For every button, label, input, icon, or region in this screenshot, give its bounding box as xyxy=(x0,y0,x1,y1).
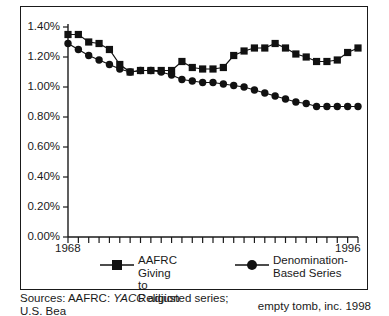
data-point-square xyxy=(344,49,351,56)
data-point-square xyxy=(303,53,310,60)
data-point-square xyxy=(323,58,330,65)
data-point-circle xyxy=(271,92,278,99)
data-point-circle xyxy=(251,86,258,93)
data-point-square xyxy=(85,38,92,45)
data-point-circle xyxy=(75,46,82,53)
source-second-line: U.S. Bea xyxy=(20,305,66,316)
data-point-circle xyxy=(354,103,361,110)
data-point-circle xyxy=(168,71,175,78)
data-point-square xyxy=(230,52,237,59)
data-point-square xyxy=(240,47,247,54)
data-point-circle xyxy=(209,79,216,86)
y-axis-tick-label: 1.20% xyxy=(8,51,60,63)
data-point-square xyxy=(209,65,216,72)
data-point-square xyxy=(251,44,258,51)
y-axis-tick-label: 1.40% xyxy=(8,21,60,33)
y-axis-tick-label: 0.60% xyxy=(8,141,60,153)
data-point-circle xyxy=(106,61,113,68)
y-axis-tick-label: 0.40% xyxy=(8,171,60,183)
data-point-square xyxy=(199,65,206,72)
data-point-square xyxy=(106,46,113,53)
data-point-square xyxy=(261,44,268,51)
data-point-circle xyxy=(344,103,351,110)
data-point-circle xyxy=(116,65,123,72)
data-point-circle xyxy=(303,100,310,107)
data-point-circle xyxy=(323,103,330,110)
source-prefix: Sources: AAFRC: xyxy=(20,292,113,304)
data-point-circle xyxy=(334,103,341,110)
data-point-square xyxy=(64,31,71,38)
chart-axes xyxy=(68,24,358,237)
data-point-square xyxy=(313,58,320,65)
data-point-square xyxy=(178,58,185,65)
data-point-circle xyxy=(230,82,237,89)
data-point-circle xyxy=(64,40,71,47)
credit-note: empty tomb, inc. 1998 xyxy=(258,300,371,313)
circle-marker-icon xyxy=(235,260,269,270)
data-point-circle xyxy=(220,80,227,87)
data-point-square xyxy=(334,56,341,63)
y-axis-tick-label: 0.80% xyxy=(8,111,60,123)
data-point-circle xyxy=(85,52,92,59)
x-axis-label-start: 1968 xyxy=(55,243,81,255)
data-point-circle xyxy=(240,83,247,90)
chart-screenshot: 1.40%1.20%1.00%0.80%0.60%0.40%0.20%0.00%… xyxy=(0,0,389,316)
data-point-square xyxy=(95,40,102,47)
data-point-circle xyxy=(189,77,196,84)
data-point-circle xyxy=(282,95,289,102)
data-point-square xyxy=(292,50,299,57)
legend-label-denomination: Denomination- Based Series xyxy=(273,254,348,279)
data-point-circle xyxy=(313,103,320,110)
data-point-square xyxy=(282,44,289,51)
y-axis-tick-label: 0.00% xyxy=(8,231,60,243)
x-axis-ticks xyxy=(68,237,358,243)
data-point-square xyxy=(189,64,196,71)
source-emphasis: YACC xyxy=(113,292,144,304)
data-point-circle xyxy=(261,89,268,96)
data-point-square xyxy=(75,31,82,38)
y-axis-tick-label: 0.20% xyxy=(8,201,60,213)
y-axis-tick-label: 1.00% xyxy=(8,81,60,93)
data-point-square xyxy=(354,44,361,51)
source-suffix: adjusted series; xyxy=(145,292,229,304)
data-point-circle xyxy=(137,67,144,74)
source-note: Sources: AAFRC: YACC adjusted series;U.S… xyxy=(20,292,228,316)
data-point-circle xyxy=(178,76,185,83)
chart-legend: AAFRC Giving to Religion Denomination- B… xyxy=(100,256,360,284)
data-point-circle xyxy=(158,68,165,75)
data-point-circle xyxy=(95,56,102,63)
chart-series xyxy=(64,31,361,76)
data-point-square xyxy=(220,64,227,71)
chart-series-group xyxy=(64,31,361,110)
x-axis-label-end: 1996 xyxy=(335,243,361,255)
data-point-square xyxy=(272,40,279,47)
data-point-circle xyxy=(147,67,154,74)
data-point-circle xyxy=(126,68,133,75)
data-point-circle xyxy=(292,98,299,105)
square-marker-icon xyxy=(100,260,134,270)
y-axis-ticks xyxy=(63,27,68,237)
data-point-circle xyxy=(199,79,206,86)
